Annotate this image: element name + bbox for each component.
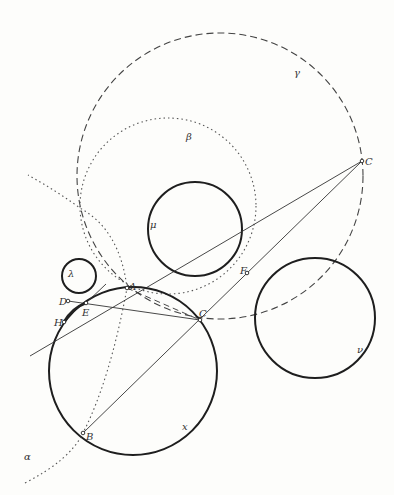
point-label: E <box>81 307 90 318</box>
circles <box>49 33 375 455</box>
circle-label-nu: ν <box>357 344 363 355</box>
labels: γβμλxνCACFDEHBα <box>24 67 373 462</box>
point-marker <box>84 301 88 305</box>
point-label: A <box>128 281 136 292</box>
circle-label-lambda: λ <box>67 268 74 279</box>
circle-label-mu: μ <box>150 219 157 230</box>
circle-kappa <box>49 287 217 455</box>
geometry-diagram: γβμλxνCACFDEHBα <box>0 0 394 495</box>
point-marker <box>81 431 85 435</box>
point-label: H <box>53 317 63 328</box>
curve-label-alpha: α <box>24 451 31 462</box>
circle-label-gamma: γ <box>294 67 300 78</box>
circle-label-beta: β <box>185 131 192 142</box>
point-marker <box>360 159 364 163</box>
circle-mu <box>148 182 242 276</box>
point-marker <box>62 320 66 324</box>
point-label: D <box>58 296 67 307</box>
point-label: B <box>85 431 93 442</box>
diagram-canvas: γβμλxνCACFDEHBα <box>0 0 394 495</box>
circle-gamma <box>77 33 363 319</box>
point-label: F <box>239 265 248 276</box>
point-label: C <box>365 156 373 167</box>
circle-label-kappa: x <box>182 421 188 432</box>
circle-nu <box>255 258 375 378</box>
point-label: C <box>199 308 207 319</box>
